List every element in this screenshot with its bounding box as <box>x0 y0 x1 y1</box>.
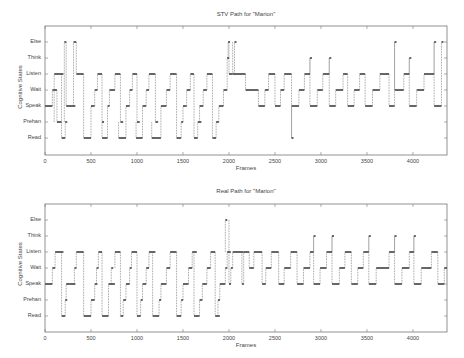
x-tick-label: 1500 <box>177 335 189 341</box>
y-tick-label: Wait <box>7 86 41 92</box>
y-tick-label: Prehan <box>7 296 41 302</box>
x-tick-label: 3500 <box>361 158 373 164</box>
plot-area <box>0 179 464 358</box>
y-tick-label: Listen <box>7 248 41 254</box>
x-tick-label: 2500 <box>269 335 281 341</box>
y-tick-label: Think <box>7 54 41 60</box>
x-tick-label: 3000 <box>315 335 327 341</box>
x-tick-label: 2500 <box>269 158 281 164</box>
x-tick-label: 500 <box>86 335 95 341</box>
real-path-chart: Real Path for "Marion" Cognitive States … <box>0 179 464 358</box>
x-tick-label: 3500 <box>361 335 373 341</box>
y-tick-label: Else <box>7 216 41 222</box>
plot-area <box>0 0 464 179</box>
y-tick-label: Speak <box>7 280 41 286</box>
y-tick-label: Read <box>7 312 41 318</box>
y-tick-label: Think <box>7 232 41 238</box>
x-tick-label: 3000 <box>315 158 327 164</box>
y-tick-label: Read <box>7 134 41 140</box>
y-tick-label: Else <box>7 38 41 44</box>
stv-path-chart: STV Path for "Marion" Cognitive States F… <box>0 0 464 179</box>
y-tick-label: Listen <box>7 70 41 76</box>
x-tick-label: 1000 <box>131 335 143 341</box>
y-tick-label: Speak <box>7 102 41 108</box>
x-tick-label: 4000 <box>407 335 419 341</box>
x-tick-label: 0 <box>43 158 46 164</box>
x-tick-label: 4000 <box>407 158 419 164</box>
x-tick-label: 1500 <box>177 158 189 164</box>
x-tick-label: 0 <box>43 335 46 341</box>
x-tick-label: 1000 <box>131 158 143 164</box>
x-tick-label: 2000 <box>223 335 235 341</box>
x-tick-label: 2000 <box>223 158 235 164</box>
y-tick-label: Wait <box>7 264 41 270</box>
x-tick-label: 500 <box>86 158 95 164</box>
y-tick-label: Prehan <box>7 118 41 124</box>
